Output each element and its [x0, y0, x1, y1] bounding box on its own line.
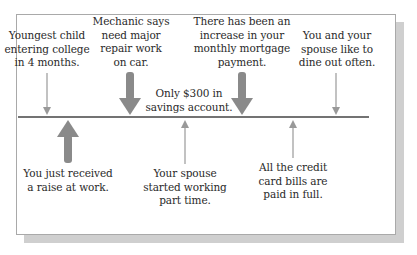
label-dine-out: You and your spouse like to dine out oft… [292, 29, 382, 70]
thin-up-arrow-icon [289, 120, 297, 158]
label-line: card bills are [250, 175, 336, 189]
label-mechanic: Mechanic says need major repair work on … [86, 15, 176, 69]
label-line: need major [86, 29, 176, 43]
label-line: Your spouse [140, 167, 230, 181]
label-line: savings account. [143, 101, 235, 115]
label-line: in 4 months. [0, 56, 94, 70]
label-line: spouse like to [292, 43, 382, 57]
label-line: a raise at work. [22, 181, 114, 195]
thin-up-arrow-icon [181, 120, 189, 164]
label-line: Mechanic says [86, 15, 176, 29]
label-line: monthly mortgage [192, 42, 292, 56]
label-line: payment. [192, 56, 292, 70]
label-line: started working [140, 181, 230, 195]
label-youngest-child: Youngest child entering college in 4 mon… [0, 29, 94, 70]
label-credit-cards: All the credit card bills are paid in fu… [250, 161, 336, 202]
label-line: on car. [86, 56, 176, 70]
label-savings: Only $300 in savings account. [143, 87, 235, 114]
label-line: paid in full. [250, 188, 336, 202]
label-line: There has been an [192, 15, 292, 29]
label-line: All the credit [250, 161, 336, 175]
label-line: Youngest child [0, 29, 94, 43]
thin-down-arrow-icon [43, 73, 51, 115]
label-spouse-working: Your spouse started working part time. [140, 167, 230, 208]
label-line: entering college [0, 43, 94, 57]
thick-up-arrow-icon [57, 120, 79, 163]
label-line: repair work [86, 42, 176, 56]
label-line: part time. [140, 194, 230, 208]
label-line: Only $300 in [143, 87, 235, 101]
label-mortgage: There has been an increase in your month… [192, 15, 292, 69]
label-raise: You just received a raise at work. [22, 167, 114, 194]
thin-down-arrow-icon [332, 73, 340, 115]
label-line: You and your [292, 29, 382, 43]
label-line: dine out often. [292, 56, 382, 70]
label-line: increase in your [192, 29, 292, 43]
thick-down-arrow-icon [119, 72, 141, 115]
label-line: You just received [22, 167, 114, 181]
